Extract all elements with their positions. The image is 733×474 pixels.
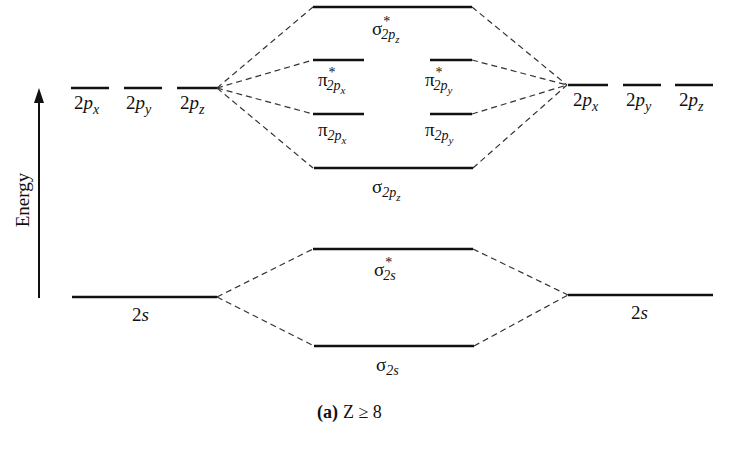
right-2p-levels: 2px 2py 2pz — [568, 85, 713, 114]
left-2p-levels: 2px 2py 2pz — [71, 88, 217, 117]
sigma-star-2s-label: σ*2s — [374, 255, 396, 283]
energy-arrow-head-icon — [34, 88, 44, 103]
right-2s-label: 2s — [631, 302, 648, 323]
sigma-2s-label: σ2s — [376, 354, 399, 378]
pi-star-2py-label: π*2py — [425, 65, 453, 96]
mo-2p-levels: σ*2pz π*2px π*2py π2px π2py σ2pz — [313, 7, 473, 203]
left-2pz-label: 2pz — [180, 92, 205, 117]
left-2s-label: 2s — [132, 304, 149, 325]
left-2py-label: 2py — [126, 92, 152, 117]
mo-energy-diagram: Energy 2px 2py 2pz 2px 2py 2pz — [0, 0, 733, 474]
pi-star-2px-label: π*2px — [318, 65, 346, 96]
figure-caption: (a)Z ≥ 8 — [317, 402, 382, 423]
sigma-star-2pz-label: σ*2pz — [372, 14, 400, 45]
pi-2py-label: π2py — [425, 119, 454, 146]
2s-correlation-lines — [217, 249, 568, 346]
sigma-2pz-label: σ2pz — [372, 176, 401, 203]
2s-levels: 2s 2s — [72, 295, 713, 325]
left-2px-label: 2px — [74, 92, 100, 117]
energy-axis-label: Energy — [12, 172, 33, 227]
pi-2px-label: π2px — [318, 119, 347, 146]
energy-axis: Energy — [12, 88, 44, 298]
right-2px-label: 2px — [573, 89, 599, 114]
mo-2s-levels: σ*2s σ2s — [313, 249, 474, 378]
right-2pz-label: 2pz — [679, 89, 704, 114]
right-2py-label: 2py — [626, 89, 652, 114]
